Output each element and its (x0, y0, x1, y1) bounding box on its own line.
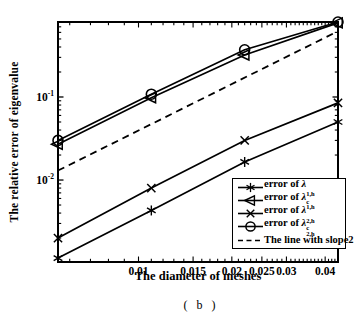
series-error-of-lambda-c-1-h (52, 18, 343, 149)
figure-panel-b: The relative error of eigenvalue The dia… (0, 0, 364, 320)
figure-caption: ( b ) (184, 298, 219, 313)
legend-box: error of λ 1,herror of λc1,herror of λ 2… (232, 178, 346, 249)
asterisk-legend-icon (237, 181, 264, 194)
x-tick-label-0.03: 0.03 (276, 265, 296, 277)
x-tick-label-0.02: 0.02 (222, 265, 242, 277)
x-tick-label-0.025: 0.025 (249, 265, 275, 277)
x-marker-icon (241, 136, 249, 144)
x-legend-icon (237, 207, 264, 220)
slope2-reference-line (58, 31, 338, 170)
dashed-line-legend-icon (237, 234, 264, 247)
asterisk-marker-icon (147, 205, 156, 215)
triangle-left-legend-icon (237, 194, 264, 207)
legend-label: The line with slope2 (264, 234, 354, 246)
circle-legend-icon (237, 220, 264, 233)
legend-item-slope2-line: The line with slope2 (237, 234, 344, 246)
x-tick-label-0.015: 0.015 (180, 265, 206, 277)
y-axis-label: The relative error of eigenvalue (8, 62, 20, 223)
y-tick-label-1e-1: 10-1 (26, 89, 54, 103)
asterisk-marker-icon (240, 157, 249, 167)
legend-item-series-4: error of λc2,h (237, 221, 344, 233)
y-tick-label-1e-2: 10-2 (26, 172, 54, 186)
x-tick-label-0.01: 0.01 (128, 265, 148, 277)
x-marker-icon (147, 184, 155, 192)
x-tick-label-0.04: 0.04 (315, 265, 335, 277)
